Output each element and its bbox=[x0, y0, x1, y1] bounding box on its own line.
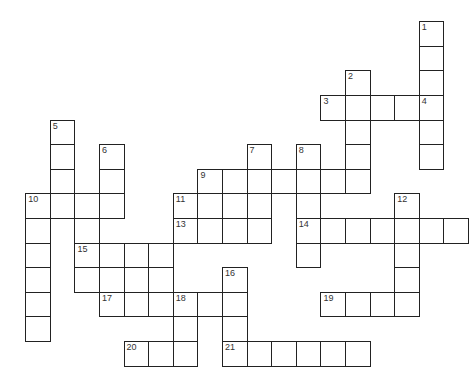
crossword-cell[interactable] bbox=[173, 316, 199, 342]
clue-number: 19 bbox=[323, 294, 333, 303]
crossword-cell[interactable] bbox=[419, 120, 445, 146]
crossword-cell[interactable] bbox=[345, 292, 371, 318]
crossword-cell[interactable] bbox=[271, 341, 297, 367]
clue-number: 15 bbox=[77, 245, 87, 254]
crossword-cell[interactable]: 16 bbox=[222, 267, 248, 293]
crossword-cell[interactable] bbox=[50, 169, 76, 195]
crossword-cell[interactable] bbox=[222, 193, 248, 219]
crossword-cell[interactable] bbox=[271, 169, 297, 195]
crossword-cell[interactable] bbox=[419, 144, 445, 170]
crossword-cell[interactable]: 15 bbox=[74, 243, 100, 269]
crossword-cell[interactable] bbox=[296, 341, 322, 367]
crossword-cell[interactable]: 11 bbox=[173, 193, 199, 219]
crossword-cell[interactable] bbox=[124, 267, 150, 293]
crossword-cell[interactable] bbox=[99, 243, 125, 269]
crossword-cell[interactable] bbox=[74, 267, 100, 293]
crossword-cell[interactable] bbox=[394, 95, 420, 121]
clue-number: 3 bbox=[323, 97, 328, 106]
clue-number: 2 bbox=[348, 72, 353, 81]
crossword-cell[interactable] bbox=[124, 292, 150, 318]
crossword-cell[interactable]: 17 bbox=[99, 292, 125, 318]
crossword-cell[interactable] bbox=[197, 193, 223, 219]
crossword-cell[interactable] bbox=[99, 193, 125, 219]
crossword-cell[interactable] bbox=[25, 243, 51, 269]
crossword-cell[interactable] bbox=[148, 243, 174, 269]
crossword-cell[interactable] bbox=[345, 95, 371, 121]
crossword-cell[interactable] bbox=[320, 341, 346, 367]
crossword-cell[interactable] bbox=[345, 144, 371, 170]
crossword-cell[interactable]: 18 bbox=[173, 292, 199, 318]
crossword-cell[interactable] bbox=[247, 169, 273, 195]
clue-number: 18 bbox=[176, 294, 186, 303]
crossword-cell[interactable] bbox=[296, 193, 322, 219]
crossword-cell[interactable] bbox=[345, 218, 371, 244]
crossword-cell[interactable] bbox=[247, 193, 273, 219]
crossword-cell[interactable] bbox=[370, 292, 396, 318]
clue-number: 6 bbox=[102, 146, 107, 155]
crossword-cell[interactable]: 3 bbox=[320, 95, 346, 121]
crossword-cell[interactable] bbox=[173, 341, 199, 367]
crossword-cell[interactable] bbox=[222, 292, 248, 318]
crossword-cell[interactable] bbox=[197, 292, 223, 318]
crossword-cell[interactable] bbox=[50, 144, 76, 170]
crossword-cell[interactable] bbox=[74, 193, 100, 219]
crossword-cell[interactable] bbox=[419, 46, 445, 72]
crossword-cell[interactable] bbox=[25, 292, 51, 318]
crossword-cell[interactable]: 5 bbox=[50, 120, 76, 146]
crossword-cell[interactable] bbox=[296, 169, 322, 195]
clue-number: 14 bbox=[299, 220, 309, 229]
crossword-cell[interactable] bbox=[345, 169, 371, 195]
crossword-cell[interactable] bbox=[247, 218, 273, 244]
crossword-cell[interactable] bbox=[197, 218, 223, 244]
crossword-cell[interactable]: 7 bbox=[247, 144, 273, 170]
clue-number: 16 bbox=[225, 269, 235, 278]
crossword-cell[interactable] bbox=[370, 218, 396, 244]
crossword-cell[interactable]: 14 bbox=[296, 218, 322, 244]
crossword-cell[interactable] bbox=[124, 243, 150, 269]
crossword-cell[interactable] bbox=[394, 292, 420, 318]
crossword-cell[interactable] bbox=[394, 218, 420, 244]
crossword-cell[interactable]: 13 bbox=[173, 218, 199, 244]
crossword-cell[interactable] bbox=[148, 267, 174, 293]
crossword-cell[interactable] bbox=[148, 341, 174, 367]
crossword-cell[interactable] bbox=[25, 316, 51, 342]
crossword-cell[interactable] bbox=[419, 70, 445, 96]
crossword-cell[interactable]: 6 bbox=[99, 144, 125, 170]
clue-number: 7 bbox=[250, 146, 255, 155]
clue-number: 13 bbox=[176, 220, 186, 229]
crossword-cell[interactable] bbox=[74, 218, 100, 244]
crossword-cell[interactable]: 19 bbox=[320, 292, 346, 318]
crossword-cell[interactable] bbox=[222, 316, 248, 342]
crossword-cell[interactable] bbox=[370, 95, 396, 121]
crossword-cell[interactable] bbox=[320, 169, 346, 195]
crossword-cell[interactable]: 2 bbox=[345, 70, 371, 96]
crossword-cell[interactable] bbox=[296, 243, 322, 269]
crossword-cell[interactable] bbox=[345, 120, 371, 146]
crossword-cell[interactable] bbox=[419, 218, 445, 244]
crossword-cell[interactable]: 21 bbox=[222, 341, 248, 367]
crossword-cell[interactable] bbox=[320, 218, 346, 244]
crossword-cell[interactable]: 10 bbox=[25, 193, 51, 219]
crossword-grid: 123456789101112131415161718192021 bbox=[0, 0, 474, 385]
clue-number: 12 bbox=[397, 195, 407, 204]
crossword-cell[interactable]: 1 bbox=[419, 21, 445, 47]
crossword-cell[interactable] bbox=[222, 218, 248, 244]
crossword-cell[interactable] bbox=[50, 193, 76, 219]
crossword-cell[interactable] bbox=[25, 267, 51, 293]
crossword-cell[interactable] bbox=[99, 169, 125, 195]
crossword-cell[interactable] bbox=[394, 243, 420, 269]
crossword-cell[interactable]: 8 bbox=[296, 144, 322, 170]
crossword-cell[interactable] bbox=[247, 341, 273, 367]
crossword-cell[interactable] bbox=[443, 218, 469, 244]
crossword-cell[interactable] bbox=[222, 169, 248, 195]
crossword-cell[interactable]: 20 bbox=[124, 341, 150, 367]
crossword-cell[interactable]: 9 bbox=[197, 169, 223, 195]
clue-number: 20 bbox=[127, 343, 137, 352]
crossword-cell[interactable]: 4 bbox=[419, 95, 445, 121]
crossword-cell[interactable] bbox=[394, 267, 420, 293]
crossword-cell[interactable] bbox=[25, 218, 51, 244]
crossword-cell[interactable] bbox=[99, 267, 125, 293]
crossword-cell[interactable]: 12 bbox=[394, 193, 420, 219]
crossword-cell[interactable] bbox=[148, 292, 174, 318]
crossword-cell[interactable] bbox=[345, 341, 371, 367]
